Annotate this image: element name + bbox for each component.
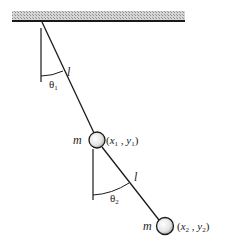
- mass-2-coordinates: (x2 , y2): [177, 220, 210, 234]
- mass-1-label: m: [73, 133, 82, 147]
- bob-2: [157, 218, 174, 235]
- rod-1-length-label: l: [67, 65, 71, 79]
- rod-2-length-label: l: [134, 170, 138, 184]
- rod-2: [102, 147, 159, 220]
- angle-1-label: θ1: [49, 78, 58, 92]
- angle-2-label: θ2: [110, 192, 119, 206]
- angle-arc-1: [41, 71, 63, 76]
- mass-2-label: m: [143, 219, 152, 233]
- bob-1: [89, 132, 105, 148]
- double-pendulum-diagram: l θ1 m (x1 , y1) l θ2 m (x2 , y2): [0, 0, 234, 249]
- mass-1-coordinates: (x1 , y1): [106, 134, 139, 148]
- ceiling-support: [12, 11, 185, 21]
